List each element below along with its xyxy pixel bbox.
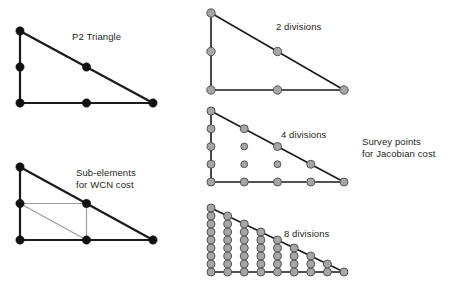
boundary-node-3	[240, 268, 248, 276]
interior-node-21	[257, 252, 265, 260]
boundary-node-15	[207, 107, 215, 115]
node-3	[16, 236, 24, 244]
interior-node-13	[257, 260, 265, 268]
survey-points-line1: Survey points	[362, 136, 421, 147]
node-5	[149, 236, 157, 244]
boundary-node-5	[273, 47, 281, 55]
node-1	[16, 27, 24, 35]
interior-node-28	[257, 244, 265, 252]
divisions-8-label: 8 divisions	[284, 228, 329, 240]
interior-node-37	[224, 228, 232, 236]
boundary-node-7	[307, 268, 315, 276]
boundary-node-5	[340, 178, 348, 186]
divisions-2-label: 2 divisions	[276, 21, 321, 33]
interior-node-22	[274, 252, 282, 260]
sub-elements-label: Sub-elementsfor WCN cost	[76, 167, 136, 191]
node-4	[82, 99, 90, 107]
interior-node-14	[274, 260, 282, 268]
node-4	[82, 236, 90, 244]
boundary-node-1	[207, 178, 215, 186]
sub-elements-label-line2: for WCN cost	[76, 179, 134, 190]
divisions-8-triangle-panel	[207, 204, 348, 276]
interior-node-29	[274, 244, 282, 252]
boundary-node-14	[240, 125, 248, 133]
boundary-node-6	[207, 160, 215, 168]
boundary-node-12	[274, 143, 282, 151]
interior-node-38	[240, 228, 248, 236]
boundary-node-13	[207, 125, 215, 133]
interior-node-11	[241, 143, 248, 150]
boundary-node-25	[207, 244, 215, 252]
interior-node-19	[224, 252, 232, 260]
interior-node-32	[224, 236, 232, 244]
node-5	[149, 99, 157, 107]
divisions-4-label: 4 divisions	[281, 129, 326, 141]
interior-node-34	[257, 236, 265, 244]
interior-node-27	[240, 244, 248, 252]
interior-node-8	[274, 161, 281, 168]
boundary-node-24	[307, 252, 315, 260]
boundary-node-43	[207, 212, 215, 220]
boundary-node-10	[207, 260, 215, 268]
node-1	[16, 163, 24, 171]
interior-node-33	[240, 236, 248, 244]
boundary-node-6	[207, 9, 215, 17]
boundary-node-3	[274, 178, 282, 186]
node-3	[16, 99, 24, 107]
node-6	[82, 199, 90, 207]
boundary-node-2	[224, 268, 232, 276]
boundary-node-9	[340, 268, 348, 276]
sub-elements-label-line1: Sub-elements	[76, 167, 136, 178]
boundary-node-45	[207, 204, 215, 212]
boundary-node-4	[307, 178, 315, 186]
boundary-node-40	[207, 220, 215, 228]
node-6	[82, 63, 90, 71]
interior-node-7	[241, 161, 248, 168]
boundary-node-8	[323, 268, 331, 276]
node-2	[16, 199, 24, 207]
p2-triangle-label: P2 Triangle	[72, 31, 121, 43]
interior-node-15	[290, 260, 298, 268]
boundary-node-17	[323, 260, 331, 268]
survey-points-annotation: Survey pointsfor Jacobian cost	[362, 136, 436, 160]
boundary-node-10	[207, 143, 215, 151]
boundary-node-9	[307, 160, 315, 168]
boundary-node-39	[257, 228, 265, 236]
boundary-node-30	[290, 244, 298, 252]
boundary-node-3	[340, 86, 348, 94]
boundary-node-1	[207, 86, 215, 94]
interior-node-23	[290, 252, 298, 260]
interior-node-16	[307, 260, 315, 268]
boundary-node-42	[240, 220, 248, 228]
boundary-node-6	[290, 268, 298, 276]
boundary-node-2	[273, 86, 281, 94]
boundary-node-4	[257, 268, 265, 276]
node-2	[16, 63, 24, 71]
interior-node-20	[240, 252, 248, 260]
interior-node-11	[224, 260, 232, 268]
boundary-node-4	[207, 47, 215, 55]
sub-element-edge-3	[20, 204, 87, 241]
divisions-4-triangle-panel	[207, 107, 348, 186]
boundary-node-35	[274, 236, 282, 244]
interior-node-41	[224, 220, 232, 228]
boundary-node-5	[274, 268, 282, 276]
interior-node-26	[224, 244, 232, 252]
figure-container: P2 Triangle Sub-elementsfor WCN cost 2 d…	[0, 0, 456, 302]
boundary-node-1	[207, 268, 215, 276]
boundary-node-18	[207, 252, 215, 260]
boundary-node-2	[240, 178, 248, 186]
survey-points-line2: for Jacobian cost	[362, 148, 436, 159]
boundary-node-36	[207, 228, 215, 236]
interior-node-12	[240, 260, 248, 268]
boundary-node-31	[207, 236, 215, 244]
boundary-node-44	[224, 212, 232, 220]
